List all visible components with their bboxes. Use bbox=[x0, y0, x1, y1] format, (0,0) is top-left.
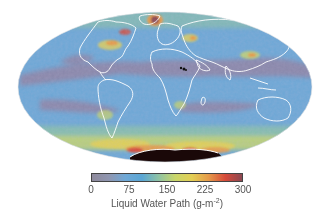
colorbar-label: Liquid Water Path (g-m-2) bbox=[111, 197, 223, 209]
colorbar-tick-300: 300 bbox=[235, 184, 252, 195]
colorbar-tick-225: 225 bbox=[197, 184, 214, 195]
colorbar-gradient bbox=[91, 173, 243, 182]
world-map bbox=[0, 0, 326, 170]
colorbar-tick-0: 0 bbox=[88, 184, 94, 195]
colorbar-tick-150: 150 bbox=[159, 184, 176, 195]
colorbar-tick-75: 75 bbox=[123, 184, 134, 195]
